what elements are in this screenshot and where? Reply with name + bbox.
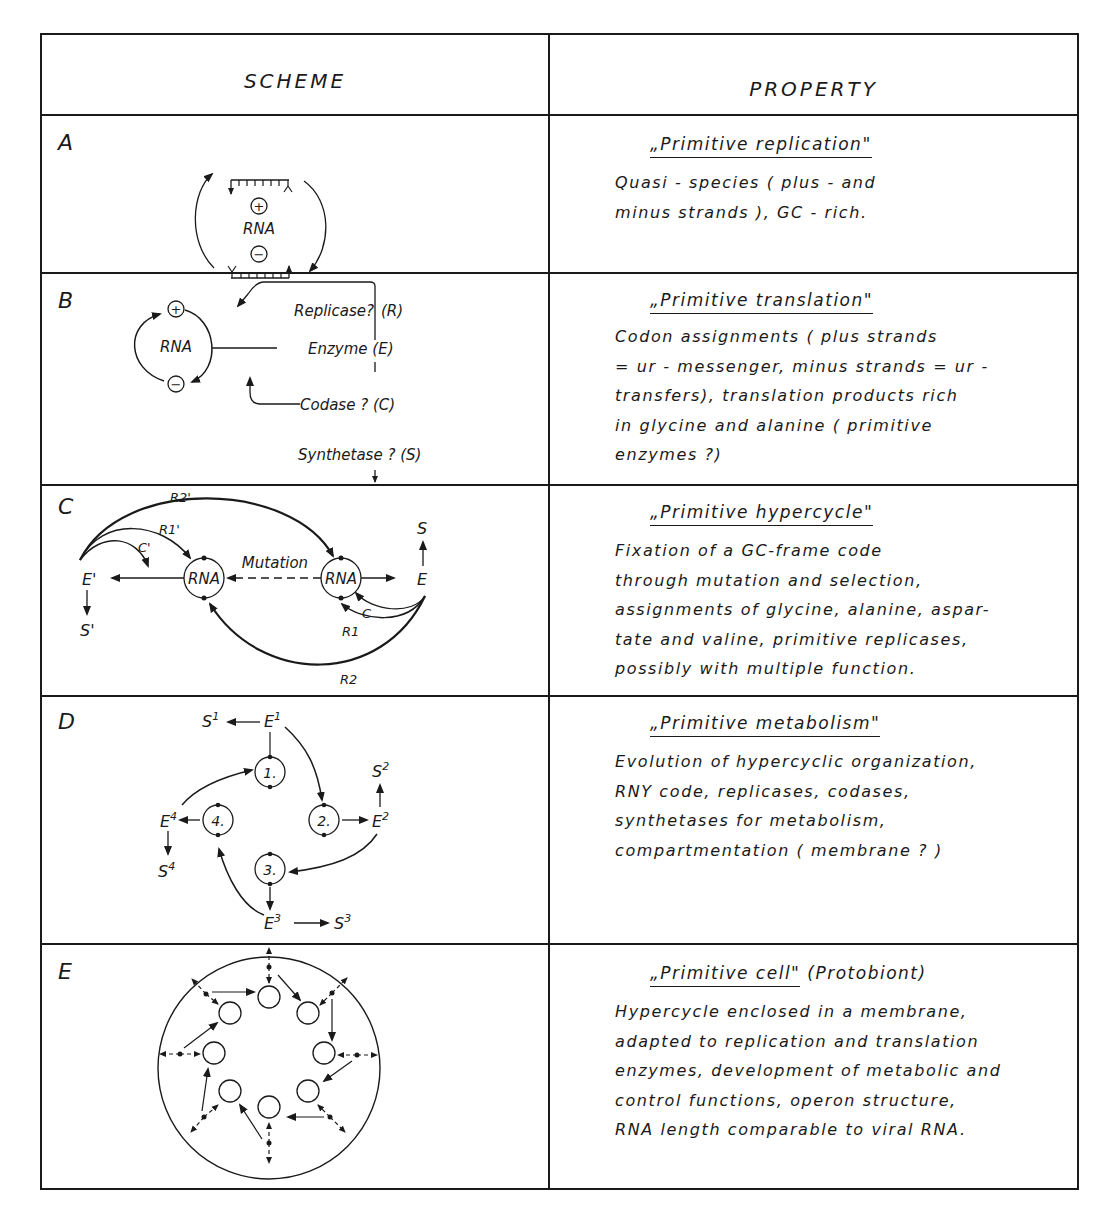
s-label: S (417, 519, 427, 538)
replicase-abbr: (R) (381, 302, 403, 320)
rna-label: RNA (243, 220, 275, 238)
primitive-translation-diagram: + RNA − Replicase? (R) Enzyme (E) Codase… (42, 274, 550, 486)
property-description: Fixation of a GC-frame code through muta… (615, 536, 990, 684)
replicase-label: Replicase? (294, 302, 374, 320)
header-scheme-cell: SCHEME (42, 35, 550, 114)
property-description: Codon assignments ( plus strands = ur - … (615, 322, 989, 470)
e4-label: E4 (160, 810, 177, 831)
evolution-scheme-table: SCHEME PROPERTY A (40, 33, 1079, 1190)
e3-label: E3 (264, 912, 281, 933)
header-property-cell: PROPERTY (550, 35, 1077, 114)
property-title: „Primitive metabolism" (650, 713, 880, 733)
scheme-cell-e: E (42, 945, 550, 1190)
plus-sign: + (254, 199, 265, 214)
r1-prime-label: R1' (159, 522, 180, 537)
minus-sign: − (254, 247, 265, 262)
property-cell-c: „Primitive hypercycle" Fixation of a GC-… (550, 486, 1077, 695)
property-title: „Primitive replication" (650, 134, 872, 154)
rna-node-4: 4. (203, 803, 233, 838)
r2-prime-label: R2' (170, 490, 191, 505)
rna-right-label: RNA (325, 570, 357, 588)
enzyme-label: Enzyme (E) (308, 340, 394, 358)
primitive-metabolism-diagram: 1. 2. 3. 4. E1 (42, 697, 550, 945)
primitive-cell-diagram (42, 945, 550, 1190)
plus-sign: + (171, 302, 182, 317)
property-cell-a: „Primitive replication" Quasi - species … (550, 116, 1077, 272)
property-title: „Primitive translation" (650, 290, 873, 310)
svg-text:3.: 3. (263, 862, 276, 878)
rna-node-3: 3. (255, 852, 285, 887)
synthetase-label: Synthetase ? (S) (298, 446, 421, 464)
property-title: „Primitive cell" (Protobiont) (650, 963, 927, 983)
s-prime-label: S' (80, 621, 95, 640)
scheme-cell-c: C RNA RNA Mutation E' E S' (42, 486, 550, 695)
scheme-cell-b: B + RNA − Replica (42, 274, 550, 484)
scheme-cell-d: D 1. 2. 3. (42, 697, 550, 943)
primitive-hypercycle-diagram: RNA RNA Mutation E' E S' S (42, 486, 550, 697)
property-cell-b: „Primitive translation" Codon assignment… (550, 274, 1077, 484)
scheme-cell-a: A (42, 116, 550, 272)
property-description: Hypercycle enclosed in a membrane, adapt… (615, 997, 1001, 1145)
e-prime-label: E' (82, 570, 97, 589)
property-cell-e: „Primitive cell" (Protobiont) Hypercycle… (550, 945, 1077, 1190)
rna-label: RNA (160, 338, 192, 356)
rna-node-1: 1. (255, 755, 285, 790)
svg-text:2.: 2. (317, 813, 330, 829)
svg-text:1.: 1. (263, 765, 276, 781)
s3-label: S3 (334, 912, 351, 933)
e2-label: E2 (372, 810, 389, 831)
header-row: SCHEME PROPERTY (42, 35, 1077, 116)
property-cell-d: „Primitive metabolism" Evolution of hype… (550, 697, 1077, 943)
header-scheme: SCHEME (42, 69, 548, 93)
property-description: Quasi - species ( plus - and minus stran… (615, 168, 876, 227)
row-c: C RNA RNA Mutation E' E S' (42, 486, 1077, 697)
mutation-label: Mutation (242, 554, 308, 572)
rna-node-2: 2. (309, 803, 339, 838)
r2-label: R2 (340, 672, 357, 687)
r1-label: R1 (342, 624, 359, 639)
row-a: A (42, 116, 1077, 274)
header-property: PROPERTY (550, 77, 1077, 101)
c-prime-label: C' (138, 540, 151, 555)
property-title: „Primitive hypercycle" (650, 502, 873, 522)
c-label: C (362, 606, 372, 621)
property-description: Evolution of hypercyclic organization, R… (615, 747, 977, 865)
s1-label: S1 (202, 710, 219, 731)
row-b: B + RNA − Replica (42, 274, 1077, 486)
s4-label: S4 (158, 860, 175, 881)
rna-left-label: RNA (188, 570, 220, 588)
row-e: E (42, 945, 1077, 1190)
minus-sign: − (171, 377, 182, 392)
s2-label: S2 (372, 760, 389, 781)
e1-label: E1 (264, 710, 281, 731)
codase-label: Codase ? (C) (300, 396, 395, 414)
primitive-replication-diagram: + RNA − (42, 116, 550, 274)
e-label: E (417, 570, 428, 589)
svg-text:4.: 4. (211, 813, 224, 829)
row-d: D 1. 2. 3. (42, 697, 1077, 945)
